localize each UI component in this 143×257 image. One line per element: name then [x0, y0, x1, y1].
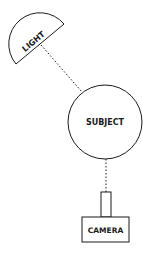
camera-label: CAMERA	[88, 226, 124, 235]
camera-node: CAMERA	[82, 192, 129, 242]
edge-light-subject	[41, 45, 82, 92]
camera-lens	[101, 192, 111, 217]
subject-label: SUBJECT	[86, 118, 125, 127]
lighting-diagram: LIGHT SUBJECT CAMERA	[0, 0, 143, 257]
light-node: LIGHT	[9, 13, 64, 64]
subject-node: SUBJECT	[68, 85, 142, 159]
